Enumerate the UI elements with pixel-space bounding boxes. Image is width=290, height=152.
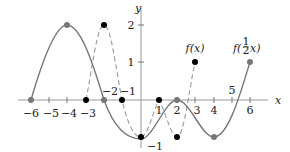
tick-y-m1: −1 (147, 140, 163, 152)
tick-x-m3: −3 (80, 107, 96, 120)
tick-x-m2: −2 (102, 85, 118, 98)
y-axis-label: y (134, 2, 142, 15)
svg-text:x): x) (250, 42, 261, 55)
tick-x-m6: −6 (23, 107, 39, 120)
label-f-half-x: f( 1 2 x) (232, 35, 261, 57)
svg-text:f(: f( (232, 42, 242, 55)
svg-text:2: 2 (243, 44, 250, 57)
tick-x-3: 3 (194, 104, 201, 117)
label-f-x: f(x) (185, 42, 205, 55)
tick-x-2: 2 (174, 104, 181, 117)
tick-x-m4: −4 (61, 107, 77, 120)
tick-x-5: 5 (229, 84, 236, 97)
tick-x-6: 6 (247, 104, 254, 117)
tick-x-m1: −1 (120, 85, 136, 98)
tick-y-2: 2 (128, 19, 135, 32)
chart: −6 −5 −4 −3 −2 −1 1 2 3 4 5 6 2 1 −1 x y… (0, 0, 290, 152)
tick-x-4: 4 (211, 104, 218, 117)
tick-y-1: 1 (128, 56, 135, 69)
tick-x-m5: −5 (43, 107, 59, 120)
x-axis-label: x (275, 94, 282, 107)
